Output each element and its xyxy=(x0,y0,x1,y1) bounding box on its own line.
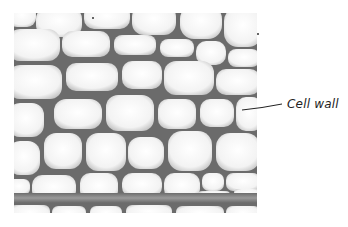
dust-speck xyxy=(257,33,259,35)
plant-cell-micrograph xyxy=(14,13,257,213)
cell-wall-label: Cell wall xyxy=(287,97,339,111)
dust-speck xyxy=(92,17,94,19)
